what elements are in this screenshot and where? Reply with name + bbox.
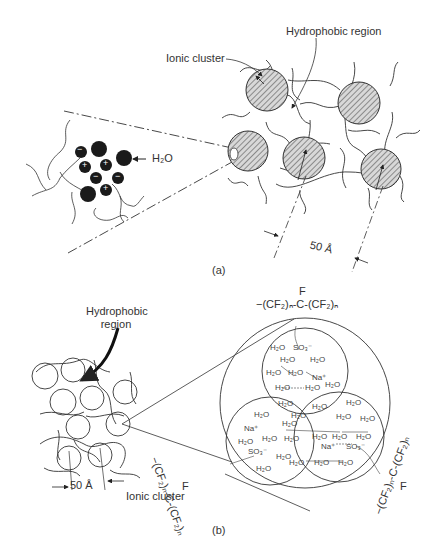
water-molecule: H₂O	[256, 464, 271, 473]
water-molecule: H₂O	[325, 380, 340, 389]
chain-top: −(CF₂)ₙ-C-(CF₂)ₙ	[256, 298, 338, 311]
water-molecule: H₂O	[282, 419, 297, 428]
chain-top-f: F	[299, 285, 306, 297]
water-molecule: H₂O	[262, 434, 277, 443]
water-molecule: H₂O	[238, 437, 253, 446]
sulfonate-group: SO₃⁻	[346, 442, 365, 451]
water-molecule: H₂O	[310, 355, 325, 364]
ionic-cluster-label: Ionic cluster	[166, 52, 225, 64]
ion-charge: +	[103, 158, 108, 168]
water-molecule: H₂O	[280, 355, 295, 364]
sulfonate-group: SO₃⁻	[248, 447, 267, 456]
ion-charge: −	[77, 144, 82, 154]
water-molecule: H₂O	[270, 343, 285, 352]
chain-left-f: F	[182, 480, 189, 492]
water-molecule: H₂O	[356, 432, 371, 441]
spacing-label-b: 50 Å	[70, 479, 93, 491]
chain-right-f: F	[400, 480, 407, 492]
ion-charge: −	[115, 171, 120, 181]
caption-a: (a)	[212, 264, 225, 276]
water-molecule: H₂O	[305, 383, 320, 392]
ionic-cluster	[246, 69, 288, 111]
hydrophobic-region-label: Hydrophobic region	[286, 25, 381, 37]
sulfonate-group: SO₃⁻	[293, 343, 312, 352]
caption-b: (b)	[212, 524, 225, 536]
ion-charge: +	[103, 183, 108, 193]
water-molecule: H₂O	[266, 368, 281, 377]
water-molecule: H₂O	[312, 432, 327, 441]
ionic-cluster	[338, 82, 380, 124]
water-molecule: H₂O	[254, 410, 269, 419]
ion-charge: +	[82, 160, 87, 170]
water-molecule: H₂O	[284, 434, 299, 443]
ionic-cluster	[361, 149, 401, 189]
water-label: H₂O	[152, 152, 173, 164]
water-molecule: H₂O	[312, 402, 327, 411]
water-molecule: H₂O	[288, 368, 303, 377]
water-molecule: H₂O	[314, 458, 329, 467]
water-molecule: H₂O	[346, 398, 361, 407]
water-molecule: H₂O	[338, 458, 353, 467]
water-molecule: H₂O	[332, 432, 347, 441]
water-molecule: H₂O	[275, 383, 290, 392]
water-molecule: H₂O	[336, 412, 351, 421]
water-molecule: H₂O	[360, 414, 375, 423]
sodium-ion: Na⁺	[321, 442, 335, 451]
ion-charge: −	[93, 171, 98, 181]
sodium-ion: Na⁺	[244, 424, 258, 433]
water-molecule: H₂O	[278, 399, 293, 408]
hydrophobic-region-label-b: Hydrophobic region	[86, 305, 146, 331]
diagram-canvas	[0, 0, 441, 556]
water-molecule: H₂O	[289, 458, 304, 467]
